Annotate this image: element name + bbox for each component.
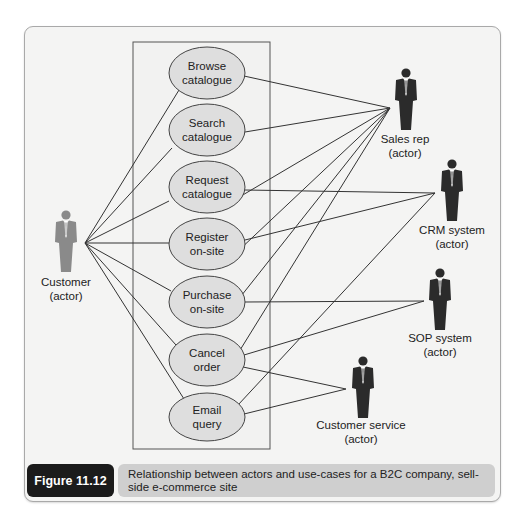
use-case-register: Register on-site <box>169 218 245 270</box>
svg-text:(actor): (actor) <box>49 290 82 302</box>
svg-text:Search: Search <box>189 117 225 129</box>
assoc-crm-register <box>245 193 435 240</box>
svg-text:Purchase: Purchase <box>183 289 232 301</box>
svg-text:order: order <box>194 361 221 373</box>
svg-text:Register: Register <box>186 231 229 243</box>
svg-text:Customer service: Customer service <box>316 419 405 431</box>
svg-text:Cancel: Cancel <box>189 347 225 359</box>
svg-text:SOP system: SOP system <box>408 332 472 344</box>
svg-text:query: query <box>193 418 222 430</box>
actor-sales-rep: Sales rep (actor) <box>381 68 430 159</box>
figure-caption: Relationship between actors and use-case… <box>118 464 495 497</box>
svg-text:(actor): (actor) <box>423 346 456 358</box>
use-case-diagram: Browse catalogue Search catalogue Reques… <box>0 0 522 527</box>
actor-customer-service: Customer service (actor) <box>316 356 405 445</box>
use-case-search: Search catalogue <box>169 104 245 156</box>
assoc-sop-cancel <box>244 301 424 355</box>
actor-customer: Customer (actor) <box>41 210 91 302</box>
svg-text:(actor): (actor) <box>388 147 421 159</box>
svg-text:CRM system: CRM system <box>419 224 485 236</box>
use-case-email: Email query <box>169 393 245 441</box>
assoc-crm-request <box>245 190 435 193</box>
crm-system-actor-icon <box>441 159 463 221</box>
use-case-request: Request catalogue <box>169 161 245 213</box>
sop-system-actor-icon <box>429 268 451 330</box>
svg-text:catalogue: catalogue <box>182 74 232 86</box>
use-case-browse: Browse catalogue <box>169 47 245 99</box>
svg-text:Email: Email <box>193 404 222 416</box>
svg-text:Browse: Browse <box>188 60 226 72</box>
svg-text:(actor): (actor) <box>344 433 377 445</box>
use-case-cancel: Cancel order <box>169 334 245 386</box>
assoc-sop-purchase <box>245 301 424 302</box>
actor-crm-system: CRM system (actor) <box>419 159 485 250</box>
svg-text:on-site: on-site <box>190 303 225 315</box>
actor-sop-system: SOP system (actor) <box>408 268 472 358</box>
sales-rep-actor-icon <box>395 68 417 130</box>
svg-text:catalogue: catalogue <box>182 131 232 143</box>
customer-service-actor-icon <box>352 356 374 418</box>
figure-number-label: Figure 11.12 <box>27 464 114 497</box>
svg-text:Customer: Customer <box>41 276 91 288</box>
svg-text:(actor): (actor) <box>435 238 468 250</box>
svg-text:Sales rep: Sales rep <box>381 133 430 145</box>
use-case-purchase: Purchase on-site <box>169 276 245 328</box>
svg-text:on-site: on-site <box>190 245 225 257</box>
svg-text:catalogue: catalogue <box>182 188 232 200</box>
svg-text:Request: Request <box>186 174 230 186</box>
figure-caption-text: Relationship between actors and use-case… <box>128 468 485 494</box>
customer-actor-icon <box>55 210 77 272</box>
